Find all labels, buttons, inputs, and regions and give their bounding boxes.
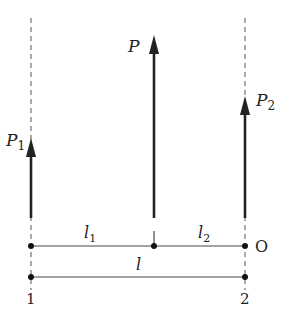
point-dot-1 — [28, 274, 34, 280]
label-l: l — [136, 255, 141, 274]
label-p2: P2 — [255, 90, 275, 113]
force-arrow-p2 — [240, 96, 250, 218]
arrowhead-icon — [240, 96, 250, 115]
label-l1: l1 — [84, 223, 96, 245]
point-dot-2 — [242, 274, 248, 280]
label-point-o: O — [255, 237, 268, 256]
arrowhead-icon — [149, 35, 159, 54]
label-point-1: 1 — [26, 290, 36, 308]
point-dot — [151, 243, 157, 249]
label-point-2: 2 — [240, 290, 250, 308]
label-l2: l2 — [198, 223, 210, 245]
force-diagram: P1 P P2 l1 l2 l O 1 2 — [0, 0, 291, 317]
force-arrow-p — [149, 35, 159, 218]
arrowhead-icon — [26, 138, 36, 157]
label-p: P — [127, 36, 140, 56]
point-dot — [28, 243, 34, 249]
force-arrow-p1 — [26, 138, 36, 218]
point-dot-o — [242, 243, 248, 249]
label-p1: P1 — [5, 130, 25, 153]
